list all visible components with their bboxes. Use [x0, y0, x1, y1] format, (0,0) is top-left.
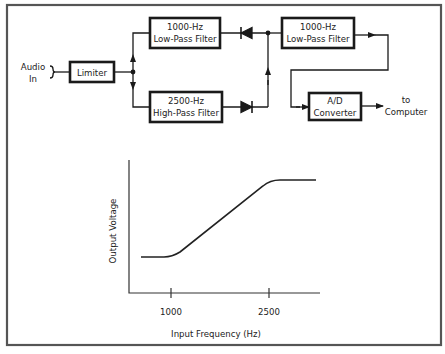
- to-computer-label-1: to: [402, 95, 411, 105]
- response-chart: 1000 2500 Input Frequency (Hz) Output Vo…: [108, 160, 320, 339]
- limiter-label: Limiter: [77, 68, 108, 78]
- hpf-lower-block: 2500-Hz High-Pass Filter: [150, 92, 222, 122]
- adc-label-1: A/D: [327, 96, 343, 106]
- wire-to-lpf-upper: [133, 33, 150, 55]
- lpf-upper-freq: 1000-Hz: [167, 22, 203, 32]
- x-axis-label: Input Frequency (Hz): [171, 329, 261, 339]
- lpf-upper-block: 1000-Hz Low-Pass Filter: [150, 18, 220, 48]
- block-diagram: Audio In Limiter 1000-Hz Low-Pass Filter…: [21, 18, 428, 122]
- wire-to-hpf: [133, 89, 150, 107]
- y-axis-label: Output Voltage: [108, 199, 118, 264]
- audio-in-label: Audio: [21, 62, 45, 72]
- diode-upper-icon: [241, 27, 252, 39]
- lpf-upper-type: Low-Pass Filter: [153, 34, 217, 44]
- hpf-freq: 2500-Hz: [168, 96, 204, 106]
- input-jack-icon: [50, 66, 55, 78]
- adc-block: A/D Converter: [309, 93, 361, 120]
- lpf-output-freq: 1000-Hz: [300, 22, 336, 32]
- x-tick-label-1000: 1000: [160, 307, 182, 317]
- to-computer-label-2: Computer: [385, 107, 428, 117]
- response-curve: [141, 180, 316, 257]
- figure: Audio In Limiter 1000-Hz Low-Pass Filter…: [0, 0, 445, 354]
- diode-lower-icon: [241, 101, 252, 113]
- adc-label-2: Converter: [314, 108, 357, 118]
- outer-frame: [7, 5, 441, 345]
- hpf-type: High-Pass Filter: [153, 108, 219, 118]
- lpf-output-type: Low-Pass Filter: [286, 34, 350, 44]
- x-tick-label-2500: 2500: [258, 307, 280, 317]
- audio-in-label-2: In: [29, 74, 37, 84]
- lpf-output-block: 1000-Hz Low-Pass Filter: [282, 18, 354, 48]
- limiter-block: Limiter: [70, 62, 114, 82]
